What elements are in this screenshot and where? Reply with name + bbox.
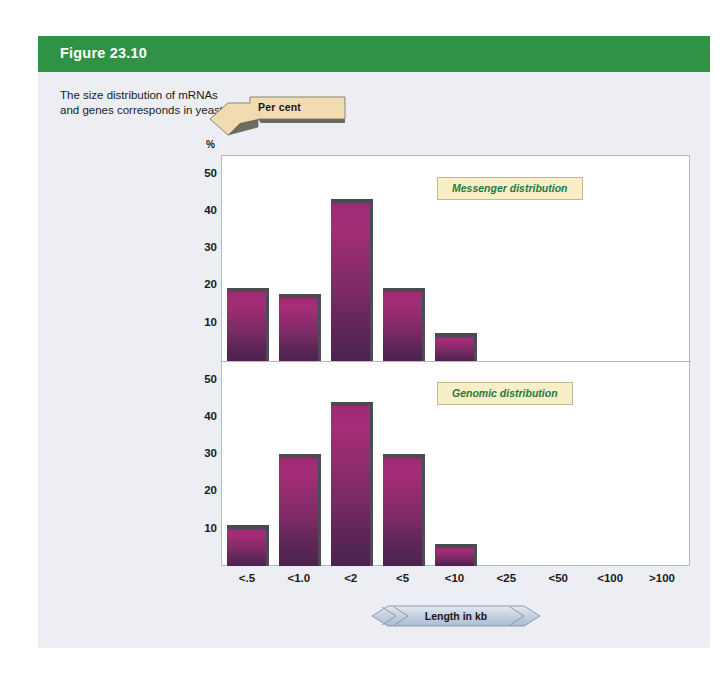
legend-messenger-distribution: Messenger distribution <box>437 177 583 200</box>
bar-10 <box>435 544 477 566</box>
y-axis-ticks-bottom: 1020304050 <box>183 361 217 566</box>
x-tick-label-10: <1.0 <box>271 572 327 584</box>
y-tick-label-10: 10 <box>189 317 217 328</box>
figure-header-bar: Figure 23.10 <box>38 36 710 72</box>
bar-5 <box>383 454 425 566</box>
y-tick-label-40: 40 <box>189 411 217 422</box>
bar-10 <box>279 294 321 361</box>
y-tick-label-50: 50 <box>189 168 217 179</box>
figure-caption: The size distribution of mRNAs and genes… <box>60 88 228 118</box>
x-axis-ticks: <.5<1.0<2<5<10<25<50<100>100 <box>221 572 690 590</box>
x-tick-label-2: <2 <box>323 572 379 584</box>
figure-card: Figure 23.10 The size distribution of mR… <box>38 36 710 648</box>
legend-genomic-distribution: Genomic distribution <box>437 382 573 405</box>
y-tick-label-20: 20 <box>189 279 217 290</box>
x-tick-label-10: <10 <box>427 572 483 584</box>
y-axis-unit-symbol: % <box>206 139 215 150</box>
chart-panel-genomic: Genomic distribution <box>222 362 689 566</box>
percent-arrow-shape <box>206 93 346 139</box>
x-tick-label-100: >100 <box>634 572 690 584</box>
y-tick-label-50: 50 <box>189 374 217 385</box>
x-tick-label-25: <25 <box>478 572 534 584</box>
x-tick-label-100: <100 <box>582 572 638 584</box>
bar-2 <box>331 402 373 566</box>
chart-panel-messenger: Messenger distribution <box>222 156 689 361</box>
x-tick-label-5: <5 <box>375 572 431 584</box>
bar-10 <box>279 454 321 566</box>
y-axis-ticks-top: 1020304050 <box>183 155 217 360</box>
bar-5 <box>383 288 425 361</box>
figure-page: Figure 23.10 The size distribution of mR… <box>0 0 720 677</box>
y-tick-label-10: 10 <box>189 523 217 534</box>
y-tick-label-30: 30 <box>189 242 217 253</box>
chart-frame: Messenger distribution Genomic distribut… <box>221 155 690 566</box>
x-axis-banner: Length in kb <box>370 602 542 630</box>
figure-number-title: Figure 23.10 <box>60 45 147 61</box>
x-tick-label-5: <.5 <box>219 572 275 584</box>
bar-2 <box>331 199 373 361</box>
x-tick-label-50: <50 <box>530 572 586 584</box>
y-tick-label-20: 20 <box>189 485 217 496</box>
bar-10 <box>435 333 477 361</box>
x-axis-banner-label: Length in kb <box>370 610 542 622</box>
bar-5 <box>227 525 269 566</box>
y-tick-label-40: 40 <box>189 205 217 216</box>
y-axis-banner-label: Per cent <box>258 101 301 113</box>
bar-5 <box>227 288 269 361</box>
y-axis-banner: Per cent <box>206 93 346 139</box>
y-tick-label-30: 30 <box>189 448 217 459</box>
